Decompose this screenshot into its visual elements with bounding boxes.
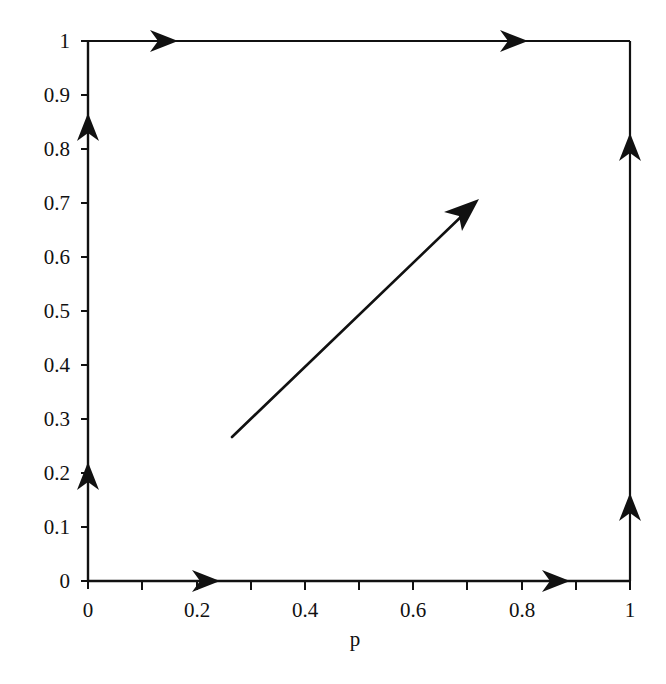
y-tick-label-0.8: 0.8 — [14, 139, 70, 160]
y-tick-label-0.2: 0.2 — [14, 463, 70, 484]
y-tick-label-0.4: 0.4 — [14, 355, 70, 376]
interior-vector-shaft — [232, 212, 466, 437]
plot-canvas — [0, 0, 666, 684]
plot-frame — [88, 41, 630, 581]
y-tick-label-0.9: 0.9 — [14, 85, 70, 106]
y-tick-label-0.6: 0.6 — [14, 247, 70, 268]
y-tick-label-0.5: 0.5 — [14, 301, 70, 322]
interior-vector-arrowhead — [444, 199, 479, 231]
y-tick-label-0.7: 0.7 — [14, 193, 70, 214]
x-tick-label-0.8: 0.8 — [509, 600, 535, 621]
x-tick-label-1: 1 — [625, 600, 636, 621]
x-tick-label-0: 0 — [83, 600, 94, 621]
x-tick-label-0.4: 0.4 — [292, 600, 318, 621]
y-tick-label-0: 0 — [14, 571, 70, 592]
x-tick-label-0.2: 0.2 — [184, 600, 210, 621]
y-tick-label-1: 1 — [14, 31, 70, 52]
y-tick-label-0.3: 0.3 — [14, 409, 70, 430]
x-axis-title: p — [350, 629, 361, 650]
interior-vector-arrow — [232, 199, 479, 437]
x-tick-label-0.6: 0.6 — [400, 600, 426, 621]
phase-portrait-figure: 1 0.9 0.8 0.7 0.6 0.5 0.4 0.3 0.2 0.1 0 … — [0, 0, 666, 684]
y-tick-label-0.1: 0.1 — [14, 517, 70, 538]
